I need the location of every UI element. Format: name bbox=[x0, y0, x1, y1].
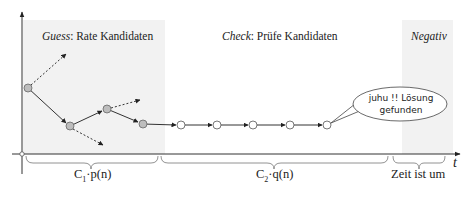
origin-marker bbox=[20, 152, 24, 156]
check-phase-title: Check: Prüfe Kandidaten bbox=[222, 30, 338, 42]
guess-node bbox=[139, 120, 147, 128]
brace-label-c1: C1·p(n) bbox=[74, 167, 111, 184]
negative-phase-title: Negativ bbox=[411, 30, 447, 42]
bubble-line-2: gefunden bbox=[356, 104, 446, 116]
check-node bbox=[213, 121, 221, 129]
guess-phase-title: Guess: Rate Kandidaten bbox=[42, 30, 153, 42]
check-node bbox=[177, 121, 185, 129]
check-node bbox=[286, 121, 294, 129]
check-description: Prüfe Kandidaten bbox=[257, 30, 338, 42]
time-axis-label: t bbox=[453, 155, 457, 171]
bubble-line-1: juhu !! Lösung bbox=[356, 92, 446, 104]
guess-node bbox=[66, 122, 74, 130]
guess-node bbox=[103, 105, 111, 113]
guess-node bbox=[24, 84, 32, 92]
guess-keyword: Guess bbox=[42, 30, 70, 42]
check-keyword: Check bbox=[222, 30, 251, 42]
check-node bbox=[249, 121, 257, 129]
check-node bbox=[323, 121, 331, 129]
brace-label-c2: C2·q(n) bbox=[256, 167, 293, 184]
negative-keyword: Negativ bbox=[411, 30, 447, 42]
guess-description: Rate Kandidaten bbox=[76, 30, 153, 42]
bubble-text: juhu !! Lösung gefunden bbox=[356, 92, 446, 116]
brace-label-zeit: Zeit ist um bbox=[391, 167, 445, 182]
